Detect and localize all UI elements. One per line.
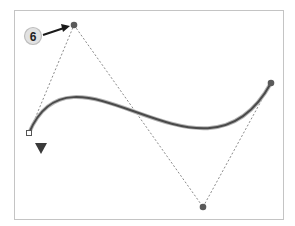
bottom-control-point[interactable] bbox=[200, 204, 207, 211]
callout-badge: 6 bbox=[25, 28, 42, 45]
end-point[interactable] bbox=[268, 80, 275, 87]
top-control-point[interactable] bbox=[71, 22, 78, 29]
badge-label: 6 bbox=[30, 30, 37, 44]
start-anchor-point[interactable] bbox=[27, 131, 32, 136]
bezier-diagram: 6 bbox=[0, 0, 295, 226]
